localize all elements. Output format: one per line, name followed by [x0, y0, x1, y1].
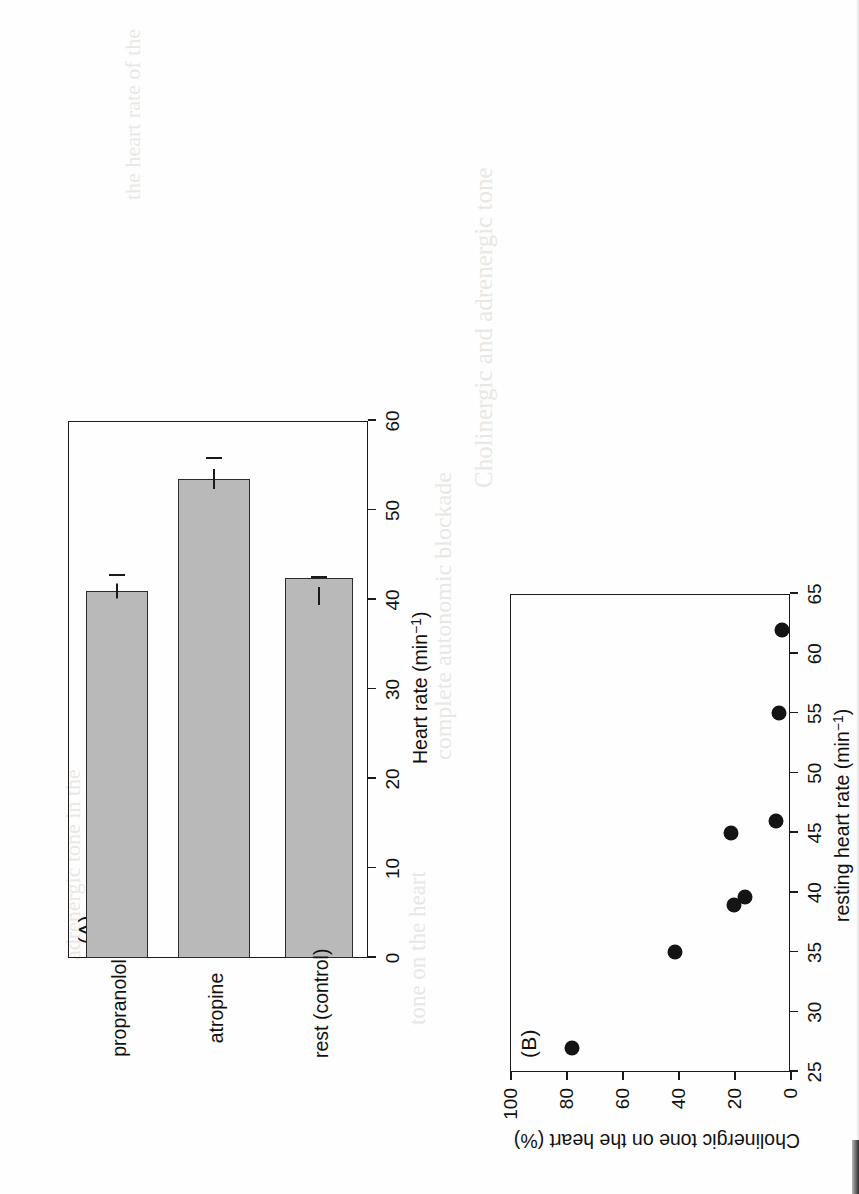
- panel-b-xtick-label-30: 30: [804, 992, 826, 1032]
- panel-b-xtick-60: [790, 652, 798, 654]
- panel-b-xtick-30: [790, 1011, 798, 1013]
- panel-b-xtick-label-55: 55: [804, 694, 826, 734]
- panel-b-ytick-label-100: 100: [500, 1088, 522, 1134]
- panel-b-x-title-tail: ): [831, 709, 853, 716]
- panel-b-xtick-40: [790, 891, 798, 893]
- panel-b-xtick-label-50: 50: [804, 753, 826, 793]
- panel-b-point-7: [774, 622, 789, 637]
- panel-b-ytick-80: [566, 1072, 568, 1080]
- panel-b-point-4: [724, 826, 739, 841]
- panel-b-xtick-label-40: 40: [804, 873, 826, 913]
- panel-b-label: (B): [517, 1029, 541, 1058]
- panel-b-point-0: [564, 1041, 579, 1056]
- panel-b-point-1: [668, 945, 683, 960]
- panel-b-point-6: [771, 706, 786, 721]
- panel-b-x-axis-title: resting heart rate (min−1): [830, 709, 854, 922]
- panel-b-x-title-sup: −1: [830, 715, 846, 731]
- panel-b-x-title-base: resting heart rate (min: [831, 731, 853, 922]
- panel-b-y-axis-title: Cholinergic tone on the heart (%): [514, 1129, 800, 1152]
- panel-b-xtick-45: [790, 831, 798, 833]
- panel-b-ytick-60: [622, 1072, 624, 1080]
- panel-b-xtick-label-25: 25: [804, 1052, 826, 1092]
- panel-b-ytick-100: [510, 1072, 512, 1080]
- panel-b: (B) 25 30 35 40 45 50 55 60 65 resting h…: [455, 374, 859, 1194]
- panel-b-ytick-label-60: 60: [612, 1088, 634, 1134]
- panel-b-xtick-label-65: 65: [804, 574, 826, 614]
- panel-b-ytick-20: [734, 1072, 736, 1080]
- panel-b-xtick-55: [790, 712, 798, 714]
- scanned-page: Cholinergic and adrenergic tone complete…: [0, 0, 859, 1194]
- panel-b-plot-box: [510, 594, 790, 1072]
- panel-b-ytick-label-80: 80: [556, 1088, 578, 1134]
- figure: (A) 0 10 20 30 40 50 60 Heart rate (min−…: [0, 0, 859, 1194]
- panel-b-point-3: [738, 890, 753, 905]
- panel-b-ytick-label-40: 40: [668, 1088, 690, 1134]
- panel-b-point-5: [769, 814, 784, 829]
- panel-b-xtick-label-35: 35: [804, 933, 826, 973]
- panel-b-ytick-label-0: 0: [780, 1088, 802, 1134]
- panel-b-xtick-50: [790, 772, 798, 774]
- panel-b-xtick-label-60: 60: [804, 634, 826, 674]
- panel-b-ytick-40: [678, 1072, 680, 1080]
- panel-c-body: [0, 0, 430, 1194]
- figure-rotated-wrapper: (A) 0 10 20 30 40 50 60 Heart rate (min−…: [0, 0, 859, 1194]
- panel-b-xtick-35: [790, 951, 798, 953]
- panel-b-xtick-65: [790, 592, 798, 594]
- panel-b-ytick-0: [790, 1072, 792, 1080]
- panel-b-ytick-label-20: 20: [724, 1088, 746, 1134]
- panel-b-xtick-label-45: 45: [804, 813, 826, 853]
